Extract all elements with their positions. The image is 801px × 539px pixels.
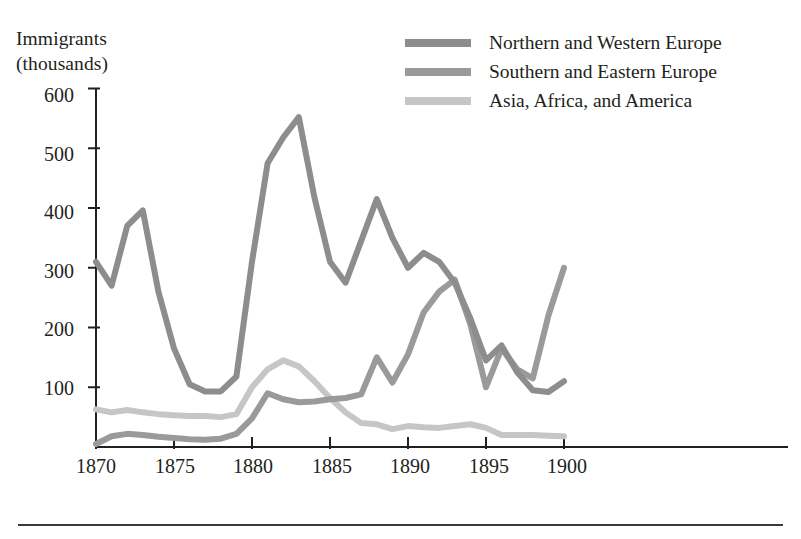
legend-item-southern-eastern-europe: Southern and Eastern Europe — [405, 57, 722, 86]
legend-label-asia-africa-america: Asia, Africa, and America — [489, 90, 692, 112]
data-series-layer — [96, 117, 564, 444]
legend-swatch-asia-africa-america — [405, 97, 471, 105]
legend-label-northern-western-europe: Northern and Western Europe — [489, 32, 722, 54]
immigration-line-chart: Immigrants (thousands) 600 500 400 300 2… — [0, 0, 801, 539]
legend: Northern and Western Europe Southern and… — [405, 28, 722, 115]
legend-swatch-northern-western-europe — [405, 39, 471, 47]
y-axis-ticks — [88, 89, 100, 388]
bottom-divider — [18, 524, 783, 526]
legend-swatch-southern-eastern-europe — [405, 68, 471, 76]
legend-label-southern-eastern-europe: Southern and Eastern Europe — [489, 61, 717, 83]
legend-item-asia-africa-america: Asia, Africa, and America — [405, 86, 722, 115]
series-line-northern-and-western-europe — [96, 117, 564, 392]
legend-item-northern-western-europe: Northern and Western Europe — [405, 28, 722, 57]
